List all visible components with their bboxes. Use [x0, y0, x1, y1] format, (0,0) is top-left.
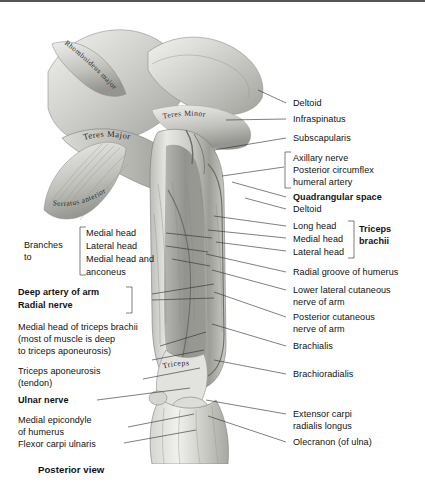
label-lower-lateral-cutaneous-line2: nerve of arm	[293, 297, 345, 308]
label-subscapularis: Subscapularis	[293, 133, 351, 144]
label-triceps-brachii-line2: brachii	[359, 236, 389, 247]
label-posterior-circumflex: Posterior circumflex	[293, 165, 374, 176]
label-deltoid-second: Deltoid	[293, 204, 322, 215]
label-olecranon: Olecranon (of ulna)	[293, 437, 372, 448]
label-humeral-artery: humeral artery	[293, 177, 352, 188]
label-branches-line1: Branches	[24, 240, 63, 251]
label-branch-medial-head: Medial head	[86, 228, 136, 239]
label-triceps-aponeurosis-line2: (tendon)	[18, 378, 52, 389]
label-brachialis: Brachialis	[293, 341, 333, 352]
label-brachioradialis: Brachioradialis	[293, 369, 353, 380]
label-radial-groove: Radial groove of humerus	[293, 267, 398, 278]
label-quadrangular-space: Quadrangular space	[293, 192, 382, 203]
label-lateral-head-right: Lateral head	[293, 247, 344, 258]
label-posterior-cutaneous-line2: nerve of arm	[293, 324, 345, 335]
label-infraspinatus: Infraspinatus	[293, 114, 346, 125]
anatomical-illustration: Rhomboideus major Teres Major Teres Mino…	[40, 14, 285, 464]
label-medial-head-right: Medial head	[293, 234, 343, 245]
label-axillary-nerve: Axillary nerve	[293, 153, 348, 164]
figure-caption: Posterior view	[38, 465, 104, 476]
label-ulnar-nerve: Ulnar nerve	[18, 395, 69, 406]
label-lower-lateral-cutaneous-line1: Lower lateral cutaneous	[293, 285, 391, 296]
label-medial-epicondyle-line1: Medial epicondyle	[18, 415, 92, 426]
label-flexor-carpi-ulnaris: Flexor carpi ulnaris	[18, 439, 96, 450]
label-extensor-carpi-line2: radialis longus	[293, 421, 352, 432]
label-radial-nerve: Radial nerve	[18, 300, 73, 311]
label-branch-lateral-head: Lateral head	[86, 241, 137, 252]
label-branch-medial-anconeus-line1: Medial head and	[86, 254, 154, 265]
label-extensor-carpi-line1: Extensor carpi	[293, 409, 352, 420]
label-posterior-cutaneous-line1: Posterior cutaneous	[293, 312, 375, 323]
label-deep-artery-of-arm: Deep artery of arm	[18, 287, 99, 298]
label-medial-epicondyle-line2: of humerus	[18, 427, 64, 438]
label-triceps-aponeurosis-line1: Triceps aponeurosis	[18, 366, 101, 377]
label-medial-head-triceps-line3: to triceps aponeurosis)	[18, 346, 111, 357]
label-branch-medial-anconeus-line2: anconeus	[86, 267, 126, 278]
label-long-head: Long head	[293, 221, 336, 232]
label-deltoid-top: Deltoid	[293, 98, 322, 109]
label-medial-head-triceps-line1: Medial head of triceps brachii	[18, 322, 138, 333]
label-branches-line2: to	[24, 252, 32, 263]
label-medial-head-triceps-line2: (most of muscle is deep	[18, 334, 115, 345]
label-triceps-brachii-line1: Triceps	[359, 224, 391, 235]
anatomy-figure: Rhomboideus major Teres Major Teres Mino…	[0, 0, 425, 488]
